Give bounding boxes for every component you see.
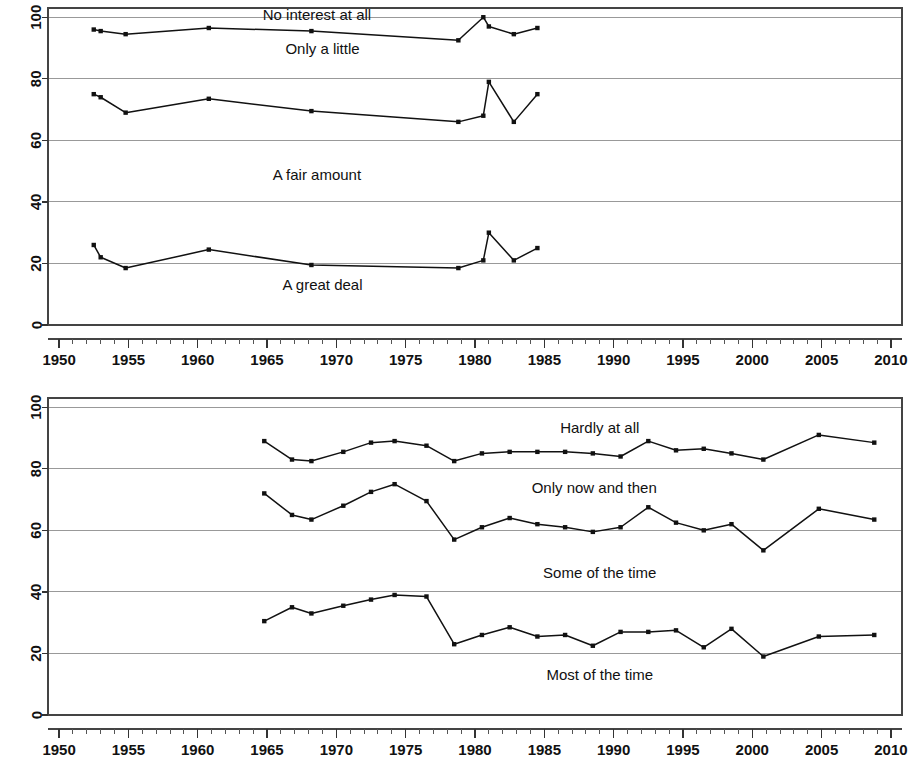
data-point-0-4	[369, 440, 373, 444]
data-point-2-4	[309, 263, 313, 267]
ytick-label-60: 60	[28, 522, 45, 539]
data-point-2-10	[535, 634, 539, 638]
xtick-label-2000: 2000	[736, 741, 769, 758]
series-line-2	[264, 595, 874, 657]
data-point-2-19	[817, 634, 821, 638]
data-point-2-2	[123, 266, 127, 270]
data-point-2-7	[452, 642, 456, 646]
data-point-0-19	[817, 433, 821, 437]
data-point-0-16	[702, 447, 706, 451]
data-point-0-17	[729, 451, 733, 455]
xtick-label-2005: 2005	[805, 741, 838, 758]
xtick-label-1995: 1995	[666, 741, 699, 758]
data-point-1-2	[123, 110, 127, 114]
data-point-1-11	[563, 525, 567, 529]
data-point-2-8	[480, 633, 484, 637]
data-point-1-10	[535, 522, 539, 526]
data-point-1-17	[729, 522, 733, 526]
data-point-1-8	[480, 525, 484, 529]
xtick-label-2010: 2010	[874, 741, 907, 758]
data-point-0-4	[309, 29, 313, 33]
data-point-2-20	[872, 633, 876, 637]
series-annotation-2: A fair amount	[273, 166, 362, 183]
data-point-0-9	[535, 26, 539, 30]
xtick-label-1950: 1950	[42, 351, 75, 368]
xtick-label-1990: 1990	[597, 351, 630, 368]
xtick-label-1950: 1950	[42, 741, 75, 758]
data-point-2-2	[309, 611, 313, 615]
data-point-0-18	[761, 457, 765, 461]
ytick-label-60: 60	[28, 132, 45, 149]
data-point-0-3	[207, 26, 211, 30]
data-point-0-12	[591, 451, 595, 455]
xtick-label-1965: 1965	[250, 741, 283, 758]
data-point-0-8	[512, 32, 516, 36]
plot-frame	[48, 8, 902, 325]
data-point-1-7	[452, 537, 456, 541]
data-point-2-6	[424, 594, 428, 598]
xtick-label-1975: 1975	[389, 351, 422, 368]
data-point-1-20	[872, 517, 876, 521]
ytick-label-0: 0	[28, 321, 45, 329]
plot-frame	[48, 398, 902, 715]
data-point-2-4	[369, 597, 373, 601]
top-chart-panel: 0204060801001950195519601965197019751980…	[0, 0, 922, 375]
data-point-2-7	[487, 230, 491, 234]
data-point-0-6	[424, 444, 428, 448]
xtick-label-1990: 1990	[597, 741, 630, 758]
data-point-0-5	[456, 38, 460, 42]
data-point-2-5	[456, 266, 460, 270]
data-point-2-15	[674, 628, 678, 632]
data-point-0-15	[674, 448, 678, 452]
data-point-1-6	[481, 114, 485, 118]
data-point-0-20	[872, 440, 876, 444]
data-point-1-6	[424, 499, 428, 503]
data-point-1-19	[817, 507, 821, 511]
series-annotation-1: Only now and then	[532, 479, 657, 496]
chart-figure: 0204060801001950195519601965197019751980…	[0, 0, 922, 765]
data-point-0-13	[618, 454, 622, 458]
xtick-label-2000: 2000	[736, 351, 769, 368]
ytick-label-40: 40	[28, 584, 45, 601]
data-point-1-12	[591, 530, 595, 534]
data-point-1-3	[207, 97, 211, 101]
xtick-label-1995: 1995	[666, 351, 699, 368]
ytick-label-100: 100	[28, 5, 45, 30]
data-point-2-14	[646, 630, 650, 634]
series-line-2	[94, 233, 538, 268]
data-point-0-0	[262, 439, 266, 443]
xtick-label-1980: 1980	[458, 741, 491, 758]
data-point-2-16	[702, 645, 706, 649]
xtick-label-1955: 1955	[112, 741, 145, 758]
series-line-0	[264, 435, 874, 461]
data-point-2-9	[507, 625, 511, 629]
xtick-label-1960: 1960	[181, 351, 214, 368]
ytick-label-100: 100	[28, 395, 45, 420]
xtick-label-1955: 1955	[112, 351, 145, 368]
data-point-1-4	[309, 109, 313, 113]
series-annotation-1: Only a little	[285, 40, 359, 57]
data-point-1-7	[487, 80, 491, 84]
top-chart-svg: 0204060801001950195519601965197019751980…	[0, 0, 922, 375]
bottom-chart-panel: 0204060801001950195519601965197019751980…	[0, 385, 922, 765]
ytick-label-40: 40	[28, 194, 45, 211]
data-point-1-9	[507, 516, 511, 520]
xtick-label-1975: 1975	[389, 741, 422, 758]
data-point-2-12	[591, 644, 595, 648]
xtick-label-1970: 1970	[320, 351, 353, 368]
ytick-label-80: 80	[28, 70, 45, 87]
data-point-1-0	[262, 491, 266, 495]
data-point-2-1	[290, 605, 294, 609]
bottom-chart-svg: 0204060801001950195519601965197019751980…	[0, 385, 922, 765]
xtick-label-1970: 1970	[320, 741, 353, 758]
data-point-1-18	[761, 548, 765, 552]
xtick-label-1960: 1960	[181, 741, 214, 758]
series-annotation-3: Most of the time	[546, 666, 653, 683]
xtick-label-1980: 1980	[458, 351, 491, 368]
data-point-2-8	[512, 258, 516, 262]
data-point-0-0	[92, 27, 96, 31]
data-point-2-11	[563, 633, 567, 637]
data-point-2-0	[262, 619, 266, 623]
data-point-0-7	[487, 24, 491, 28]
ytick-label-20: 20	[28, 645, 45, 662]
